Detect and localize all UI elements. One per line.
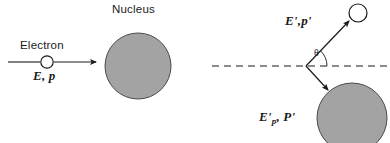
scattering-angle-label: θ [314, 48, 319, 58]
nucleus-label: Nucleus [112, 4, 155, 16]
electron-circle [41, 56, 53, 68]
scattering-diagram: Nucleus Electron E, p E',p' E'p, P' θ [0, 0, 390, 143]
recoil-nucleus-circle [317, 83, 387, 143]
recoil-nucleus-energy-symbol: E' [259, 109, 272, 124]
scattered-momentum-symbol: p' [301, 13, 312, 28]
comma-separator-incident: , [42, 68, 49, 83]
scattered-energy-symbol: E' [285, 13, 298, 28]
incident-energy-momentum-label: E, p [33, 69, 55, 82]
nucleus-circle [105, 33, 171, 99]
electron-label: Electron [20, 40, 64, 52]
incident-energy-symbol: E [33, 68, 42, 83]
scattering-angle-arc [321, 51, 328, 66]
recoil-nucleus-energy-momentum-label: E'p, P' [259, 110, 295, 126]
scattered-electron-circle [349, 4, 367, 22]
scattered-electron-energy-momentum-label: E',p' [285, 14, 312, 27]
recoil-nucleus-arrow [306, 66, 328, 90]
diagram-canvas [0, 0, 390, 143]
recoil-nucleus-momentum-symbol: P' [283, 109, 295, 124]
incident-momentum-symbol: p [49, 68, 56, 83]
scattered-electron-arrow [306, 21, 349, 66]
